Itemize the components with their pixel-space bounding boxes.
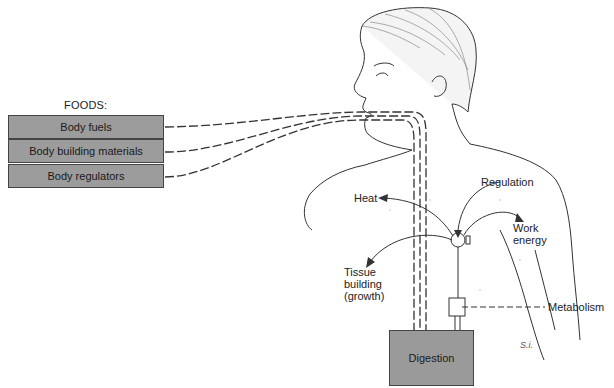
heat-label: Heat <box>354 192 377 204</box>
foods-title: FOODS: <box>64 99 107 111</box>
work-energy-line1: Work <box>513 222 547 234</box>
diagram-canvas <box>0 0 614 388</box>
metabolism-label: Metabolism <box>548 301 604 313</box>
tissue-building-label: Tissue building (growth) <box>344 266 384 302</box>
food-box-body-fuels: Body fuels <box>8 115 164 139</box>
tissue-line3: (growth) <box>344 290 384 302</box>
tissue-line1: Tissue <box>344 266 384 278</box>
food-box-body-regulators: Body regulators <box>8 164 164 188</box>
work-energy-label: Work energy <box>513 222 547 246</box>
regulation-label: Regulation <box>481 176 534 188</box>
food-pathways <box>165 112 426 332</box>
digestion-box: Digestion <box>389 330 474 386</box>
regulator-valve-icon <box>449 233 470 331</box>
artist-signature: S.i. <box>520 340 533 350</box>
food-box-body-building-materials: Body building materials <box>8 139 164 163</box>
energy-arrows <box>370 182 520 262</box>
tissue-line2: building <box>344 278 384 290</box>
work-energy-line2: energy <box>513 234 547 246</box>
